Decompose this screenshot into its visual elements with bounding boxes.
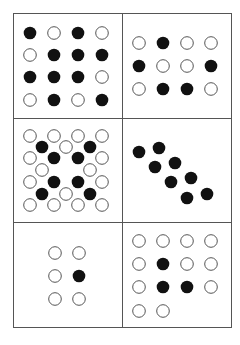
empty-dot xyxy=(205,258,218,271)
empty-dot xyxy=(49,293,62,306)
filled-dot xyxy=(48,94,61,107)
empty-dot xyxy=(205,37,218,50)
empty-dot xyxy=(24,199,37,212)
empty-dot xyxy=(133,235,146,248)
filled-dot xyxy=(181,192,194,205)
empty-dot xyxy=(181,258,194,271)
filled-dot xyxy=(48,152,61,165)
filled-dot xyxy=(72,71,85,84)
empty-dot xyxy=(205,281,218,294)
empty-dot xyxy=(49,247,62,260)
filled-dot xyxy=(181,83,194,96)
filled-dot xyxy=(201,188,214,201)
filled-dot xyxy=(73,270,86,283)
filled-dot xyxy=(96,94,109,107)
filled-dot xyxy=(157,37,170,50)
filled-dot xyxy=(133,146,146,159)
empty-dot xyxy=(96,71,109,84)
empty-dot xyxy=(36,164,49,177)
filled-dot xyxy=(153,142,166,155)
empty-dot xyxy=(49,270,62,283)
filled-dot xyxy=(24,71,37,84)
empty-dot xyxy=(157,60,170,73)
empty-dot xyxy=(24,152,37,165)
filled-dot xyxy=(157,83,170,96)
empty-dot xyxy=(48,199,61,212)
filled-dot xyxy=(96,49,109,62)
filled-dot xyxy=(48,71,61,84)
empty-dot xyxy=(24,94,37,107)
filled-dot xyxy=(205,60,218,73)
empty-dot xyxy=(96,199,109,212)
filled-dot xyxy=(185,172,198,185)
empty-dot xyxy=(133,305,146,318)
filled-dot xyxy=(169,157,182,170)
filled-dot xyxy=(48,176,61,189)
empty-dot xyxy=(60,141,73,154)
empty-dot xyxy=(133,37,146,50)
empty-dot xyxy=(181,60,194,73)
filled-dot xyxy=(72,27,85,40)
empty-dot xyxy=(73,247,86,260)
empty-dot xyxy=(24,176,37,189)
empty-dot xyxy=(96,152,109,165)
empty-dot xyxy=(205,235,218,248)
empty-dot xyxy=(96,176,109,189)
empty-dot xyxy=(72,94,85,107)
filled-dot xyxy=(72,49,85,62)
empty-dot xyxy=(72,199,85,212)
filled-dot xyxy=(36,141,49,154)
empty-dot xyxy=(48,130,61,143)
empty-dot xyxy=(72,130,85,143)
filled-dot xyxy=(36,188,49,201)
filled-dot xyxy=(72,152,85,165)
empty-dot xyxy=(133,258,146,271)
empty-dot xyxy=(157,305,170,318)
filled-dot xyxy=(133,60,146,73)
empty-dot xyxy=(24,130,37,143)
filled-dot xyxy=(157,258,170,271)
filled-dot xyxy=(165,176,178,189)
empty-dot xyxy=(205,83,218,96)
empty-dot xyxy=(84,164,97,177)
filled-dot xyxy=(157,281,170,294)
filled-dot xyxy=(181,281,194,294)
empty-dot xyxy=(60,188,73,201)
empty-dot xyxy=(96,130,109,143)
empty-dot xyxy=(48,27,61,40)
filled-dot xyxy=(84,188,97,201)
filled-dot xyxy=(24,27,37,40)
filled-dot xyxy=(72,176,85,189)
empty-dot xyxy=(157,235,170,248)
dot-puzzle-figure xyxy=(0,0,240,345)
filled-dot xyxy=(84,141,97,154)
empty-dot xyxy=(96,27,109,40)
empty-dot xyxy=(133,281,146,294)
empty-dot xyxy=(181,37,194,50)
filled-dot xyxy=(149,161,162,174)
empty-dot xyxy=(73,293,86,306)
empty-dot xyxy=(181,235,194,248)
empty-dot xyxy=(24,49,37,62)
filled-dot xyxy=(48,49,61,62)
empty-dot xyxy=(133,83,146,96)
